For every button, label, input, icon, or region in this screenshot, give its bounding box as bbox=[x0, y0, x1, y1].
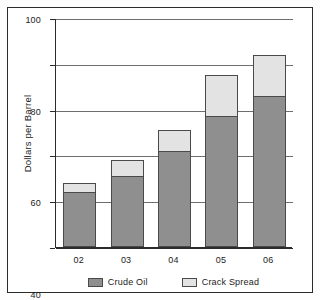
chart-legend: Crude OilCrack Spread bbox=[55, 277, 292, 287]
y-tick-80: 80 bbox=[50, 65, 55, 66]
bar-segment-crude-oil-06 bbox=[253, 96, 286, 247]
bar-group-04 bbox=[158, 130, 191, 247]
legend-label-spread: Crack Spread bbox=[202, 277, 259, 287]
x-tick-label-02: 02 bbox=[73, 255, 83, 265]
y-tick-label-80: 80 bbox=[31, 107, 41, 117]
legend-label-crude: Crude Oil bbox=[108, 277, 148, 287]
bar-segment-crack-spread-05 bbox=[205, 75, 238, 116]
bar-segment-crack-spread-06 bbox=[253, 55, 286, 96]
legend-swatch-crude bbox=[88, 278, 103, 287]
legend-swatch-spread bbox=[182, 278, 197, 287]
y-tick-label-40: 40 bbox=[31, 290, 41, 300]
x-tick-label-05: 05 bbox=[216, 255, 226, 265]
x-tick-label-06: 06 bbox=[263, 255, 273, 265]
gridline-0 bbox=[56, 248, 293, 249]
bar-segment-crude-oil-04 bbox=[158, 151, 191, 247]
plot-area: 020406080100 bbox=[55, 19, 292, 248]
bar-segment-crude-oil-03 bbox=[111, 176, 144, 247]
legend-item-crude[interactable]: Crude Oil bbox=[88, 277, 148, 287]
chart-figure: Dollars per Barrel 020406080100 02030405… bbox=[0, 0, 320, 300]
y-tick-0: 0 bbox=[50, 248, 55, 249]
bar-group-06 bbox=[253, 55, 286, 247]
bar-segment-crack-spread-03 bbox=[111, 160, 144, 176]
bar-group-05 bbox=[205, 75, 238, 247]
y-tick-40: 40 bbox=[50, 156, 55, 157]
y-tick-label-60: 60 bbox=[31, 198, 41, 208]
y-tick-100: 100 bbox=[50, 19, 55, 20]
bar-series-container bbox=[56, 18, 293, 247]
bar-group-02 bbox=[63, 183, 96, 247]
y-axis-title: Dollars per Barrel bbox=[20, 19, 34, 248]
x-tick-label-03: 03 bbox=[121, 255, 131, 265]
bar-group-03 bbox=[111, 160, 144, 247]
bar-segment-crack-spread-02 bbox=[63, 183, 96, 192]
bar-segment-crack-spread-04 bbox=[158, 130, 191, 151]
legend-item-spread[interactable]: Crack Spread bbox=[182, 277, 259, 287]
y-tick-60: 60 bbox=[50, 111, 55, 112]
y-tick-label-100: 100 bbox=[25, 15, 41, 25]
x-tick-label-04: 04 bbox=[168, 255, 178, 265]
y-tick-20: 20 bbox=[50, 202, 55, 203]
bar-segment-crude-oil-02 bbox=[63, 192, 96, 247]
bar-segment-crude-oil-05 bbox=[205, 116, 238, 247]
